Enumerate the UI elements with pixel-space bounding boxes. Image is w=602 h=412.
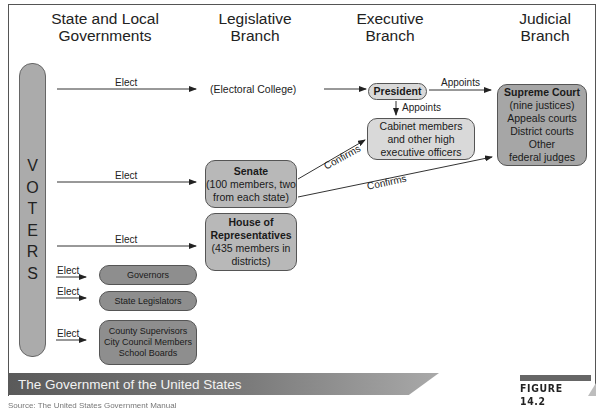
state-legislators-node: State Legislators xyxy=(99,291,197,311)
house-node: House of Representatives (435 members in… xyxy=(205,213,297,271)
label-elect-local: Elect xyxy=(57,328,79,339)
electoral-college: (Electoral College) xyxy=(210,83,296,95)
local-line: County Supervisors xyxy=(109,326,188,337)
label-elect-governors: Elect xyxy=(57,265,79,276)
cabinet-node: Cabinet members and other high executive… xyxy=(367,118,475,160)
label-appoints-cabinet: Appoints xyxy=(402,102,441,113)
voters-bar: V O T E R S xyxy=(19,63,46,357)
court-line: Appeals courts xyxy=(507,112,576,125)
house-detail: (435 members in districts) xyxy=(206,242,296,268)
cabinet-text: Cabinet members and other high executive… xyxy=(372,120,470,159)
diagram-frame xyxy=(8,4,596,396)
governors-node: Governors xyxy=(99,265,197,285)
header-legislative: Legislative Branch xyxy=(200,10,310,44)
senate-title: Senate xyxy=(234,165,268,178)
house-title: House of Representatives xyxy=(206,216,296,242)
senate-detail: (100 members, two from each state) xyxy=(206,178,296,204)
voters-letter: V xyxy=(27,155,38,177)
local-line: City Council Members xyxy=(104,337,192,348)
label-elect-house: Elect xyxy=(115,234,137,245)
state-legislators-text: State Legislators xyxy=(114,296,181,307)
supreme-court-title: Supreme Court xyxy=(504,86,580,99)
header-executive: Executive Branch xyxy=(345,10,435,44)
court-line: (nine justices) xyxy=(510,99,575,112)
voters-letter: S xyxy=(27,263,38,285)
header-judicial: Judicial Branch xyxy=(505,10,585,44)
voters-letter: T xyxy=(28,198,38,220)
president-node: President xyxy=(368,83,427,100)
label-elect-state-legislators: Elect xyxy=(57,286,79,297)
governors-text: Governors xyxy=(127,270,169,281)
label-elect-electoral: Elect xyxy=(115,77,137,88)
figure-title: The Government of the United States xyxy=(18,377,242,392)
local-government-node: County Supervisors City Council Members … xyxy=(99,320,197,365)
voters-letter: R xyxy=(27,241,39,263)
label-appoints-court: Appoints xyxy=(441,77,480,88)
senate-node: Senate (100 members, two from each state… xyxy=(205,160,297,208)
local-line: School Boards xyxy=(119,348,178,359)
court-line: federal judges xyxy=(509,151,575,164)
voters-letter: E xyxy=(27,220,38,242)
supreme-court-node: Supreme Court (nine justices) Appeals co… xyxy=(497,84,587,166)
court-line: District courts xyxy=(510,125,574,138)
court-line: Other xyxy=(529,138,555,151)
label-elect-senate: Elect xyxy=(115,170,137,181)
figure-label-bar xyxy=(520,375,591,381)
source-note: Source: The United States Government Man… xyxy=(8,401,176,410)
voters-letter: O xyxy=(26,177,38,199)
header-state-local: State and Local Governments xyxy=(30,10,180,44)
figure-number: FIGURE 14.2 xyxy=(520,382,590,408)
